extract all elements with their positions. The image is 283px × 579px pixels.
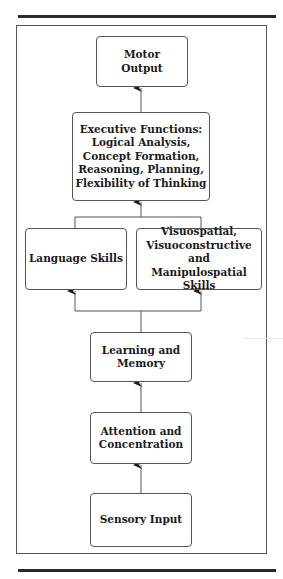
node-sensory-input: Sensory Input	[90, 493, 192, 547]
node-motor-output: Motor Output	[96, 36, 188, 87]
node-executive-functions: Executive Functions: Logical Analysis, C…	[72, 112, 210, 201]
node-language-skills: Language Skills	[25, 228, 127, 290]
node-label: Attention and Concentration	[99, 425, 183, 452]
node-label: Sensory Input	[100, 513, 182, 527]
node-label: Motor Output	[121, 48, 162, 75]
node-label: Learning and Memory	[102, 344, 180, 371]
node-visuospatial-skills: Visuospatial, Visuoconstructive and Mani…	[136, 228, 262, 290]
bottom-rule	[18, 569, 276, 572]
node-label: Language Skills	[29, 252, 123, 266]
node-label: Visuospatial, Visuoconstructive and Mani…	[137, 225, 261, 293]
node-learning-memory: Learning and Memory	[90, 332, 192, 382]
node-label: Executive Functions: Logical Analysis, C…	[76, 123, 207, 191]
node-attention-concentration: Attention and Concentration	[90, 412, 192, 464]
